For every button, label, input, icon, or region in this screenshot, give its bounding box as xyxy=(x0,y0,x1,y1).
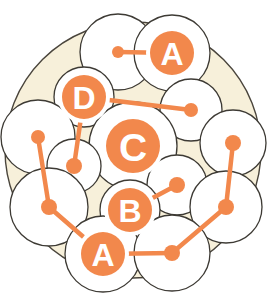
node-disc xyxy=(41,199,57,215)
node-disc xyxy=(150,31,194,75)
node-dot xyxy=(225,135,241,151)
node-disc xyxy=(169,177,185,193)
node-dot xyxy=(164,245,180,261)
node-disc xyxy=(184,103,198,117)
labeled-node-a: A xyxy=(146,27,198,79)
node-disc xyxy=(112,46,124,58)
node-disc xyxy=(31,130,45,144)
labeled-node-a: A xyxy=(77,228,129,280)
node-disc xyxy=(164,245,180,261)
node-dot xyxy=(169,177,185,193)
node-dot xyxy=(66,158,82,174)
node-dot xyxy=(218,199,234,215)
node-disc xyxy=(225,135,241,151)
node-disc xyxy=(62,75,106,119)
node-dot xyxy=(31,130,45,144)
node-disc xyxy=(81,232,125,276)
labeled-node-c: C xyxy=(102,115,164,177)
node-dot xyxy=(184,103,198,117)
node-disc xyxy=(106,119,160,173)
node-dot xyxy=(112,46,124,58)
node-disc xyxy=(66,158,82,174)
node-disc xyxy=(108,188,152,232)
circle-packing-diagram: ADCBA xyxy=(0,0,275,299)
diagram-root: ADCBA xyxy=(0,0,275,299)
labeled-node-d: D xyxy=(58,71,110,123)
node-dot xyxy=(41,199,57,215)
labeled-node-b: B xyxy=(104,184,156,236)
node-disc xyxy=(218,199,234,215)
